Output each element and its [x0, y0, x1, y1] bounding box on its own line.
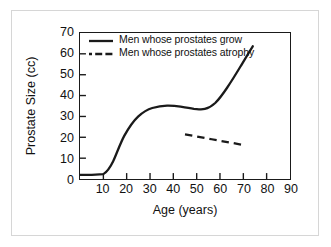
series-grow-line: [80, 46, 253, 175]
x-axis-tick-labels: 10 20 30 40 50 60 70 80 90: [0, 183, 331, 201]
y-tick-label: 60: [50, 47, 74, 60]
y-tick-label: 10: [50, 153, 74, 166]
x-axis-ticks: [103, 173, 266, 179]
series-atrophy-line: [185, 134, 246, 145]
x-tick-label: 70: [231, 183, 257, 196]
legend-label-atrophy: Men whose prostates atrophy: [119, 46, 254, 58]
y-tick-label: 40: [50, 89, 74, 102]
y-tick-label: 70: [50, 26, 74, 39]
x-tick-label: 30: [137, 183, 163, 196]
legend-item-grow: Men whose prostates grow: [88, 33, 278, 45]
y-tick-label: 50: [50, 68, 74, 81]
y-tick-label: 30: [50, 110, 74, 123]
y-axis-title-text: Prostate Size (cc): [24, 57, 38, 156]
legend-label-grow: Men whose prostates grow: [119, 33, 242, 45]
x-tick-label: 90: [278, 183, 304, 196]
legend-dashed-line-icon: [88, 46, 114, 58]
legend-item-atrophy: Men whose prostates atrophy: [88, 46, 278, 58]
y-axis-tick-labels: 70 60 50 40 30 20 10 0: [48, 0, 74, 247]
chart-figure: Prostate Size (cc) 70 60 50 40 30 20 10 …: [0, 0, 331, 247]
y-axis-title: Prostate Size (cc): [22, 32, 40, 180]
x-tick-label: 50: [184, 183, 210, 196]
x-tick-label: 80: [254, 183, 280, 196]
x-tick-label: 10: [90, 183, 116, 196]
x-axis-title: Age (years): [79, 203, 291, 217]
y-tick-label: 20: [50, 132, 74, 145]
x-tick-label: 60: [207, 183, 233, 196]
x-tick-label: 40: [160, 183, 186, 196]
legend-solid-line-icon: [88, 33, 114, 45]
x-tick-label: 20: [113, 183, 139, 196]
chart-legend: Men whose prostates grow Men whose prost…: [88, 33, 278, 59]
y-axis-ticks: [80, 54, 86, 158]
